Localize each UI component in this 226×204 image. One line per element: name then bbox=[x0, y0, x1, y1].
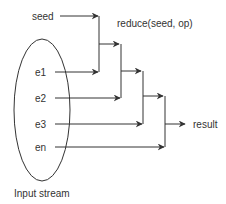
input-en-label: en bbox=[35, 142, 46, 153]
reduce-label: reduce(seed, op) bbox=[117, 18, 193, 29]
input-stream-ellipse bbox=[14, 39, 70, 181]
input-e3-label: e3 bbox=[35, 119, 47, 130]
input-e1-label: e1 bbox=[35, 67, 47, 78]
input-stream-label: Input stream bbox=[14, 188, 70, 199]
input-e2-label: e2 bbox=[35, 93, 47, 104]
seed-label: seed bbox=[32, 11, 54, 22]
reduce-diagram: seed reduce(seed, op) e1 e2 e3 en result… bbox=[0, 0, 226, 204]
result-label: result bbox=[193, 119, 218, 130]
